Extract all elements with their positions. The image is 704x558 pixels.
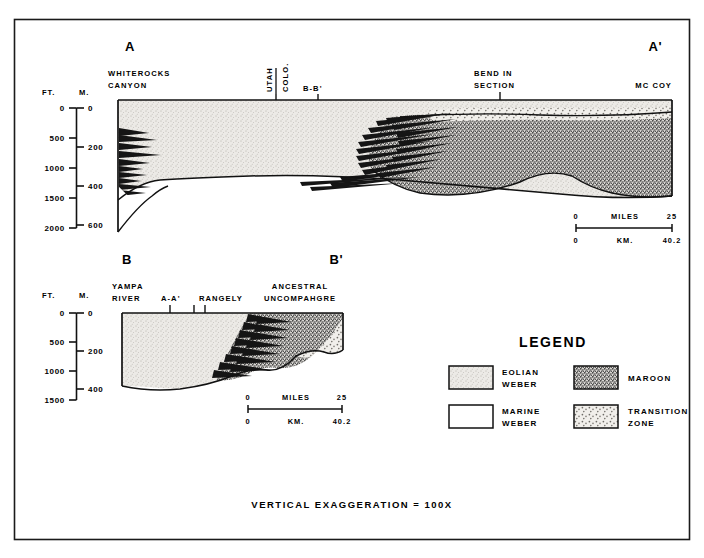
locality-ancestral-uncompahgre-line1: ANCESTRAL	[272, 282, 328, 291]
geologic-cross-section-figure: A A' FT. M. 0 500 1000 1500 2000	[0, 0, 704, 558]
scale-a-miles-min: 0	[573, 212, 578, 221]
locality-b-b-prime: B-B'	[303, 84, 323, 93]
locality-colo: COLO.	[281, 63, 290, 92]
scale-b-km-max: 40.2	[333, 417, 352, 426]
section-b-left-label: B	[122, 252, 132, 267]
section-a-ft-axis-label: FT.	[42, 88, 55, 97]
locality-whiterocks-canyon-line2: CANYON	[108, 81, 147, 90]
legend-label-eolian-weber-line1: EOLIAN	[502, 368, 539, 377]
section-b-right-label: B'	[330, 252, 343, 267]
section-a-ft-tick-1000: 1000	[44, 164, 65, 173]
section-b-ft-tick-1000: 1000	[44, 367, 65, 376]
section-a-left-label: A	[125, 39, 135, 54]
section-a-m-axis-label: M.	[79, 88, 89, 97]
section-a-m-tick-400: 400	[88, 182, 103, 191]
section-a-m-tick-600: 600	[88, 221, 103, 230]
section-a-right-label: A'	[649, 39, 662, 54]
scale-a-km-max: 40.2	[663, 236, 682, 245]
legend-label-marine-weber-line2: WEBER	[502, 419, 538, 428]
scale-a-km-label: KM.	[617, 236, 634, 245]
locality-whiterocks-canyon-line1: WHITEROCKS	[108, 69, 170, 78]
figure-svg: A A' FT. M. 0 500 1000 1500 2000	[0, 0, 704, 558]
locality-rangely: RANGELY	[199, 294, 243, 303]
figure-caption: VERTICAL EXAGGERATION = 100X	[251, 499, 452, 510]
locality-utah: UTAH	[265, 67, 274, 92]
legend-label-marine-weber-line1: MARINE	[502, 407, 540, 416]
section-b-ft-tick-500: 500	[50, 338, 65, 347]
legend-swatch-eolian-weber	[449, 366, 493, 389]
legend-label-maroon: MAROON	[628, 374, 671, 383]
section-b-ft-tick-0: 0	[60, 309, 65, 318]
section-a-m-tick-0: 0	[88, 104, 93, 113]
section-a-ft-tick-1500: 1500	[44, 194, 65, 203]
scale-b-miles-min: 0	[245, 393, 250, 402]
section-a-ft-tick-0: 0	[60, 104, 65, 113]
scale-a-km-min: 0	[573, 236, 578, 245]
legend-label-eolian-weber-line2: WEBER	[502, 380, 538, 389]
scale-b-km-label: KM.	[288, 417, 305, 426]
legend-swatch-marine-weber	[449, 405, 493, 428]
section-b-m-axis-label: M.	[79, 291, 89, 300]
legend-label-transition-zone-line1: TRANSITION	[628, 407, 688, 416]
section-b-m-tick-400: 400	[88, 385, 103, 394]
figure-border	[15, 20, 690, 540]
legend-title: LEGEND	[519, 334, 587, 350]
section-b-ft-tick-1500: 1500	[44, 396, 65, 405]
section-b-m-tick-200: 200	[88, 347, 103, 356]
section-a-ft-tick-500: 500	[50, 134, 65, 143]
legend-swatch-transition-zone	[574, 405, 618, 428]
locality-bend-in-section-line2: SECTION	[474, 81, 515, 90]
locality-mc-coy: MC COY	[635, 81, 672, 90]
locality-yampa-river-line2: RIVER	[112, 294, 140, 303]
section-b-m-tick-0: 0	[88, 309, 93, 318]
section-b-ft-axis-label: FT.	[42, 291, 55, 300]
legend-swatch-maroon	[574, 366, 618, 389]
locality-yampa-river-line1: YAMPA	[112, 282, 143, 291]
locality-ancestral-uncompahgre-line2: UNCOMPAHGRE	[264, 294, 336, 303]
locality-bend-in-section-line1: BEND IN	[474, 69, 513, 78]
legend-label-transition-zone-line2: ZONE	[628, 419, 655, 428]
scale-b-miles-label: MILES	[282, 393, 310, 402]
section-a-ft-tick-2000: 2000	[44, 224, 65, 233]
section-a-m-tick-200: 200	[88, 143, 103, 152]
scale-b-miles-max: 25	[337, 393, 347, 402]
scale-a-miles-label: MILES	[611, 212, 639, 221]
scale-b-km-min: 0	[245, 417, 250, 426]
locality-a-a-prime: A-A'	[161, 294, 181, 303]
scale-a-miles-max: 25	[667, 212, 677, 221]
